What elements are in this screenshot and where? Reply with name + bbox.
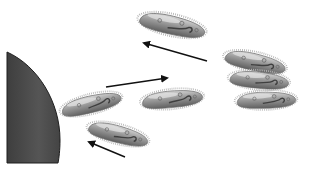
arrow-right (106, 78, 167, 87)
obstacle (7, 52, 60, 163)
arrow-top-left (144, 43, 207, 61)
paramecium-top (135, 7, 209, 43)
paramecium-middle (139, 85, 205, 112)
paramecium-lower (84, 116, 152, 151)
paramecium-near-obstacle (57, 86, 125, 121)
paramecium-cluster-3 (234, 89, 297, 111)
paramecium-diagram (0, 0, 309, 172)
